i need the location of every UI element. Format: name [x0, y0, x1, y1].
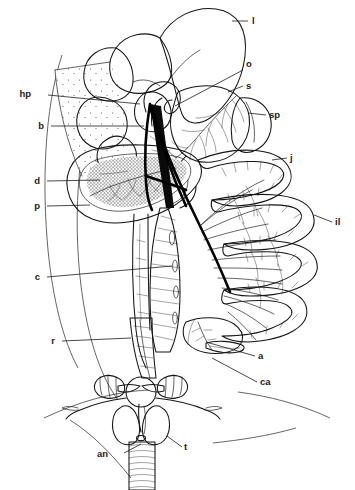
label-p: p — [34, 200, 40, 211]
label-a: a — [258, 350, 264, 361]
label-l: l — [252, 15, 255, 26]
label-sp: sp — [269, 109, 280, 120]
label-hp: hp — [19, 88, 31, 99]
label-b: b — [38, 120, 44, 131]
label-il: il — [335, 216, 340, 227]
label-s: s — [246, 80, 251, 91]
label-ca: ca — [260, 376, 271, 387]
page-background — [0, 0, 355, 490]
label-c: c — [35, 271, 40, 282]
label-d: d — [34, 175, 40, 186]
label-j: j — [289, 152, 293, 163]
anatomical-diagram: losspjilacahpbdpcrant — [0, 0, 355, 490]
label-o: o — [246, 58, 252, 69]
figure-canvas: losspjilacahpbdpcrant — [0, 0, 355, 490]
label-r: r — [51, 335, 55, 346]
label-an: an — [97, 448, 108, 459]
